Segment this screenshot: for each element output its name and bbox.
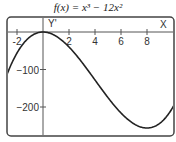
- y-axis-label: Y': [48, 18, 57, 29]
- x-tick-label: 8: [144, 36, 150, 47]
- x-axis-label: X: [160, 19, 167, 30]
- x-tick-label: 4: [92, 36, 98, 47]
- y-tick-label: −100: [16, 65, 39, 76]
- x-tick-label: 6: [118, 36, 124, 47]
- x-tick-label: -2: [13, 36, 22, 47]
- chart-plot: -22468 −100−200 Y' X: [0, 0, 176, 142]
- y-tick-label: −200: [16, 102, 39, 113]
